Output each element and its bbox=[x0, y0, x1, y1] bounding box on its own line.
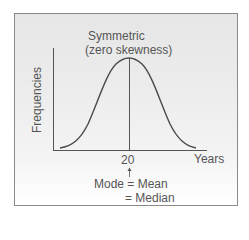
annotation-mode-mean: Mode = Mean bbox=[94, 178, 168, 191]
x-axis-label: Years bbox=[194, 153, 224, 166]
annotation-median: = Median bbox=[125, 192, 175, 205]
bell-curve bbox=[60, 58, 196, 148]
arrow-up-icon bbox=[128, 168, 132, 172]
chart-subtitle: (zero skewness) bbox=[85, 44, 172, 57]
x-tick-label: 20 bbox=[121, 154, 134, 167]
y-axis-label: Frequencies bbox=[31, 67, 44, 133]
chart-title: Symmetric bbox=[88, 30, 145, 43]
